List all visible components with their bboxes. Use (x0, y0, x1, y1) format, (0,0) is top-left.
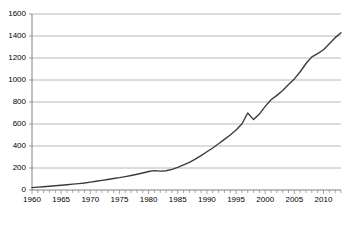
y-axis-tick-label: 200 (0, 164, 26, 172)
x-axis-tick-label: 1965 (46, 196, 76, 204)
x-axis-tick-label: 2000 (250, 196, 280, 204)
line-chart: 02004006008001000120014001600 1960196519… (0, 0, 350, 226)
x-axis-tick-label: 1995 (221, 196, 251, 204)
y-axis-tick-label: 0 (0, 186, 26, 194)
x-axis-tick-label: 1960 (17, 196, 47, 204)
data-series-line (32, 33, 341, 188)
y-axis-tick-label: 600 (0, 120, 26, 128)
y-axis-tick-label: 1200 (0, 54, 26, 62)
y-axis-tick-label: 800 (0, 98, 26, 106)
x-axis-tick-label: 2005 (279, 196, 309, 204)
x-axis-tick-label: 1970 (75, 196, 105, 204)
x-axis-tick-label: 1985 (163, 196, 193, 204)
gridlines (32, 14, 341, 168)
x-axis-tick-label: 1990 (192, 196, 222, 204)
x-axis-ticks (29, 14, 341, 194)
x-axis-tick-label: 2010 (309, 196, 339, 204)
y-axis-tick-label: 1400 (0, 32, 26, 40)
chart-plot-area (0, 0, 350, 226)
y-axis-tick-label: 1000 (0, 76, 26, 84)
y-axis-tick-label: 1600 (0, 10, 26, 18)
y-axis-tick-label: 400 (0, 142, 26, 150)
x-axis-tick-label: 1975 (104, 196, 134, 204)
x-axis-tick-label: 1980 (134, 196, 164, 204)
